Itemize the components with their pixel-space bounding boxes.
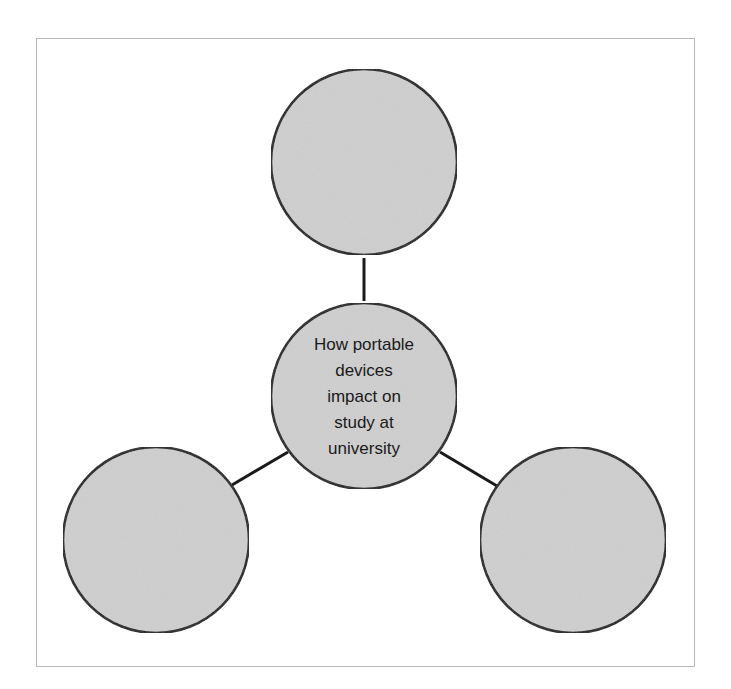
center-node-label: How portable devices impact on study at …	[284, 332, 444, 462]
node-top[interactable]	[271, 69, 457, 255]
node-bottom-right[interactable]	[480, 447, 666, 633]
node-bottom-left[interactable]	[63, 447, 249, 633]
connector-bottom-right	[440, 452, 497, 486]
center-label-line-5: university	[284, 436, 444, 462]
connector-bottom-left	[232, 452, 288, 485]
center-label-line-1: How portable	[284, 332, 444, 358]
center-label-line-3: impact on	[284, 384, 444, 410]
center-label-line-2: devices	[284, 358, 444, 384]
center-label-line-4: study at	[284, 410, 444, 436]
